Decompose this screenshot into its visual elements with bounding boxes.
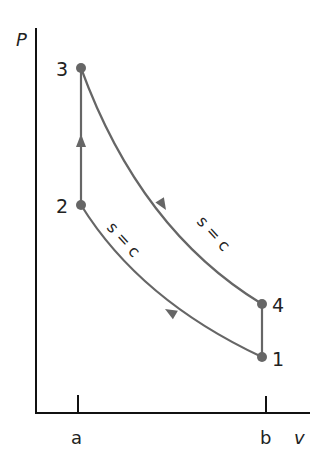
point-1 (257, 352, 267, 362)
point-3 (76, 63, 86, 73)
point-label-1: 1 (272, 348, 284, 370)
process-3-4 (81, 68, 262, 304)
x-tick-label-b: b (260, 427, 271, 448)
point-label-3: 3 (56, 58, 68, 80)
point-label-2: 2 (56, 195, 68, 217)
point-label-4: 4 (272, 294, 284, 316)
process-label-1-2: s = c (103, 218, 144, 261)
x-axis-label: v (294, 427, 305, 448)
arrow-2-3 (76, 134, 86, 147)
point-4 (257, 299, 267, 309)
pv-diagram: P v a b 3 2 4 1 s = c s = c (0, 0, 332, 464)
x-tick-label-a: a (71, 427, 82, 448)
point-2 (76, 200, 86, 210)
y-axis-label: P (16, 29, 27, 50)
process-label-3-4: s = c (193, 212, 234, 255)
